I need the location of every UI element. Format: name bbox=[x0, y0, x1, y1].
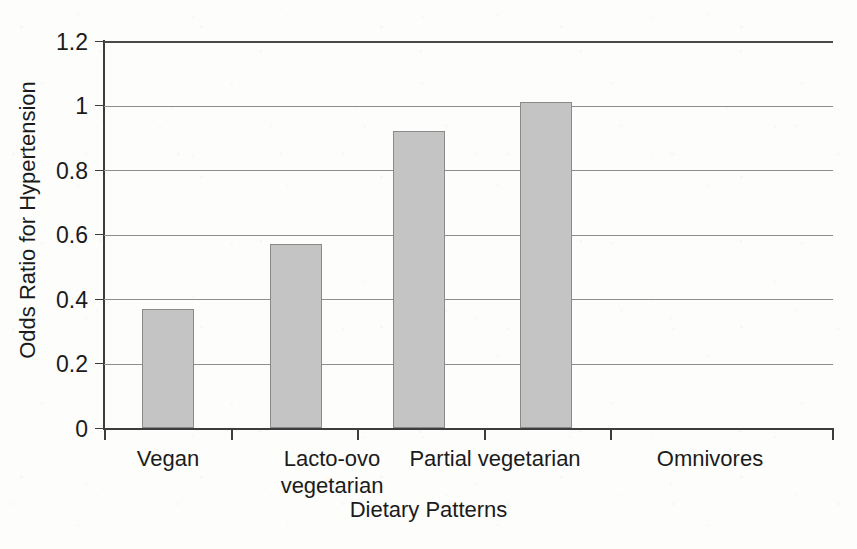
bar-omnivores bbox=[520, 102, 572, 428]
bar-vegan bbox=[142, 309, 194, 428]
bar-lacto-ovo-vegetarian bbox=[270, 244, 322, 428]
x-tick-label-omnivores: Omnivores bbox=[620, 445, 800, 472]
y-axis-title-text: Odds Ratio for Hypertension bbox=[15, 81, 41, 359]
gridline-0.6 bbox=[104, 235, 833, 236]
gridline-0.2 bbox=[104, 364, 833, 365]
gridline-0.4 bbox=[104, 299, 833, 300]
x-tick-mark-0 bbox=[104, 430, 106, 440]
y-tick-label-0.8: 0.8 bbox=[38, 158, 88, 185]
gridline-1 bbox=[104, 106, 833, 107]
x-tick-mark-2 bbox=[357, 430, 359, 440]
x-tick-mark-1 bbox=[231, 430, 233, 440]
x-tick-label-vegan: Vegan bbox=[98, 445, 238, 472]
bar-chart-figure: Odds Ratio for Hypertension 1.2 1 0.8 0.… bbox=[0, 0, 857, 549]
x-tick-mark-4 bbox=[610, 430, 612, 440]
gridline-1.2 bbox=[104, 41, 833, 43]
x-tick-label-partial-vegetarian: Partial vegetarian bbox=[385, 445, 605, 472]
x-axis-title: Dietary Patterns bbox=[0, 497, 857, 523]
x-tick-label-lacto-ovo-vegetarian: Lacto-ovo vegetarian bbox=[262, 445, 402, 499]
plot-area bbox=[104, 41, 833, 428]
bar-partial-vegetarian bbox=[393, 131, 445, 428]
x-tick-mark-3 bbox=[484, 430, 486, 440]
gridline-0.8 bbox=[104, 170, 833, 171]
x-axis-line bbox=[104, 428, 834, 430]
y-tick-label-1: 1 bbox=[38, 93, 88, 120]
y-tick-label-0.4: 0.4 bbox=[38, 287, 88, 314]
y-tick-label-0: 0 bbox=[38, 416, 88, 443]
y-tick-label-0.2: 0.2 bbox=[38, 351, 88, 378]
y-tick-label-0.6: 0.6 bbox=[38, 222, 88, 249]
x-tick-mark-5 bbox=[832, 430, 834, 440]
y-tick-label-1.2: 1.2 bbox=[38, 29, 88, 56]
